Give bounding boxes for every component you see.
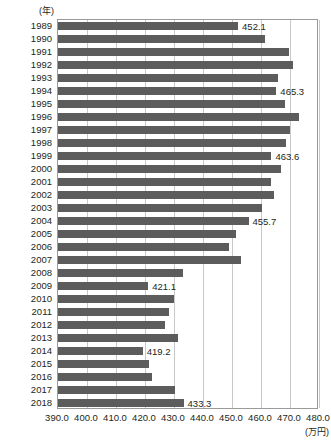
bar-row — [58, 176, 317, 189]
x-axis-tick-label: 480.0 — [298, 411, 331, 424]
bar-row — [58, 384, 317, 397]
bar — [58, 321, 165, 329]
plot-area: 452.1465.3463.6455.7421.1419.2433.3 — [57, 19, 318, 409]
y-axis-tick-label: 1997 — [0, 123, 52, 136]
bar-row — [58, 306, 317, 319]
bar — [58, 360, 149, 368]
bar — [58, 347, 143, 355]
bar-row — [58, 72, 317, 85]
bar-row — [58, 319, 317, 332]
bar-series: 452.1465.3463.6455.7421.1419.2433.3 — [58, 20, 317, 408]
y-axis-tick-label: 2002 — [0, 188, 52, 201]
y-axis-tick-label: 2013 — [0, 331, 52, 344]
bar-value-label: 421.1 — [152, 280, 176, 293]
bar — [58, 295, 174, 303]
bar-value-label: 433.3 — [188, 397, 212, 410]
y-axis-tick-label: 2007 — [0, 253, 52, 266]
bar-row — [58, 46, 317, 59]
y-axis-tick-label: 2017 — [0, 383, 52, 396]
bar-value-label: 419.2 — [147, 345, 171, 358]
bar — [58, 386, 175, 394]
bar-row — [58, 189, 317, 202]
bar — [58, 139, 286, 147]
bar-row — [58, 98, 317, 111]
y-axis-tick-label: 1991 — [0, 45, 52, 58]
y-axis-tick-label: 1990 — [0, 32, 52, 45]
y-axis-tick-label: 2006 — [0, 240, 52, 253]
y-axis-tick-label: 1996 — [0, 110, 52, 123]
bar — [58, 334, 178, 342]
bar-row: 452.1 — [58, 20, 317, 33]
bar-row — [58, 332, 317, 345]
bar — [58, 204, 262, 212]
bar — [58, 243, 229, 251]
y-axis-tick-label: 2010 — [0, 292, 52, 305]
bar — [58, 308, 169, 316]
y-axis-tick-label: 1993 — [0, 71, 52, 84]
bar-row — [58, 124, 317, 137]
bar-row — [58, 111, 317, 124]
bar-row — [58, 59, 317, 72]
bar-row: 421.1 — [58, 280, 317, 293]
y-axis-tick-label: 2008 — [0, 266, 52, 279]
bar-row: 419.2 — [58, 345, 317, 358]
bar-row — [58, 137, 317, 150]
bar-row — [58, 371, 317, 384]
bar-row: 455.7 — [58, 215, 317, 228]
y-axis-tick-label: 2015 — [0, 357, 52, 370]
bar — [58, 399, 184, 407]
y-axis-tick-label: 2016 — [0, 370, 52, 383]
bar — [58, 87, 276, 95]
bar — [58, 74, 278, 82]
bar-value-label: 463.6 — [275, 150, 299, 163]
bar — [58, 126, 290, 134]
y-axis-tick-label: 1989 — [0, 19, 52, 32]
gridline — [319, 20, 320, 408]
y-axis-tick-label: 2009 — [0, 279, 52, 292]
bar — [58, 373, 152, 381]
bar-row — [58, 228, 317, 241]
bar-chart: (年) 198919901991199219931994199519961997… — [0, 0, 331, 443]
bar — [58, 256, 241, 264]
y-axis-tick-label: 1992 — [0, 58, 52, 71]
x-axis-tick-labels: 390.0400.0410.0420.0430.0440.0450.0460.0… — [0, 411, 331, 425]
bar — [58, 152, 271, 160]
y-axis-tick-label: 2014 — [0, 344, 52, 357]
y-axis-tick-label: 1998 — [0, 136, 52, 149]
y-axis-tick-label: 2012 — [0, 318, 52, 331]
bar — [58, 100, 285, 108]
bar-value-label: 455.7 — [253, 215, 277, 228]
y-axis-tick-label: 2000 — [0, 162, 52, 175]
bar — [58, 269, 183, 277]
bar — [58, 191, 274, 199]
bar — [58, 217, 249, 225]
bar — [58, 178, 271, 186]
bar — [58, 61, 293, 69]
bar-value-label: 465.3 — [280, 85, 304, 98]
bar — [58, 35, 265, 43]
bar-row — [58, 254, 317, 267]
bar-row — [58, 293, 317, 306]
y-axis-unit-label: (年) — [0, 6, 54, 17]
bar-value-label: 452.1 — [242, 20, 266, 33]
bar-row — [58, 241, 317, 254]
y-axis-tick-label: 2003 — [0, 201, 52, 214]
bar-row — [58, 33, 317, 46]
y-axis-tick-labels: 1989199019911992199319941995199619971998… — [0, 19, 54, 409]
bar — [58, 48, 289, 56]
bar-row: 463.6 — [58, 150, 317, 163]
bar-row: 433.3 — [58, 397, 317, 410]
y-axis-tick-label: 2001 — [0, 175, 52, 188]
bar — [58, 165, 281, 173]
bar-row — [58, 202, 317, 215]
y-axis-tick-label: 2011 — [0, 305, 52, 318]
y-axis-tick-label: 1999 — [0, 149, 52, 162]
bar — [58, 113, 299, 121]
bar — [58, 282, 148, 290]
bar-row — [58, 163, 317, 176]
bar — [58, 22, 238, 30]
bar-row: 465.3 — [58, 85, 317, 98]
x-axis-unit-label: (万円) — [305, 427, 329, 438]
y-axis-tick-label: 2004 — [0, 214, 52, 227]
y-axis-tick-label: 1995 — [0, 97, 52, 110]
